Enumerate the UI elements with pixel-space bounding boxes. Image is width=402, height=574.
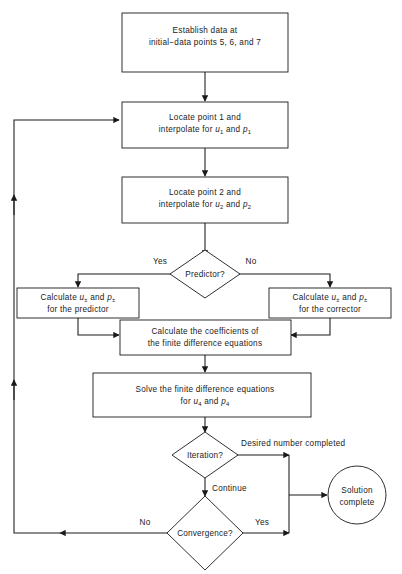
solution-complete-line1: Solution: [341, 486, 373, 495]
edge-left-rail: [14, 120, 119, 533]
calculate-corrector-line2: for the corrector: [299, 305, 361, 314]
solve-equations-box[interactable]: [93, 373, 311, 417]
calculate-predictor-line2: for the predictor: [47, 305, 109, 314]
label-convergence-no: No: [140, 518, 151, 527]
calculate-coefficients-box[interactable]: [120, 320, 291, 355]
establish-data-line2: initial−data points 5, 6, and 7: [149, 38, 261, 47]
locate2-sub-p: 2: [248, 204, 251, 210]
calculate-predictor-line1: Calculate u± and p±: [41, 293, 116, 303]
locate2-mid: and: [223, 200, 242, 209]
node-calculate-coefficients[interactable]: Calculate the coefficients of the finite…: [120, 320, 291, 355]
locate-point-1-line1: Locate point 1 and: [169, 113, 241, 122]
iteration-decision-label: Iteration?: [187, 451, 223, 460]
establish-data-line1: Establish data at: [173, 26, 238, 35]
flowchart-canvas: Establish data at initial−data points 5,…: [0, 0, 402, 574]
calccorr-mid: and: [340, 293, 359, 302]
node-locate-point-1[interactable]: Locate point 1 and interpolate for u1 an…: [122, 102, 288, 148]
calccorr-pre: Calculate: [293, 293, 332, 302]
flowchart-svg: Establish data at initial−data points 5,…: [0, 0, 402, 574]
predictor-decision-label: Predictor?: [185, 270, 225, 279]
calcpred-pre: Calculate: [41, 293, 80, 302]
node-solution-complete[interactable]: Solution complete: [328, 466, 386, 524]
edge-corrector-box-to-coefficients: [291, 318, 330, 335]
node-solve-equations[interactable]: Solve the finite difference equations fo…: [93, 373, 311, 417]
node-iteration-decision[interactable]: Iteration?: [172, 432, 238, 478]
edge-predictor-no: [226, 274, 330, 287]
coefficients-line2: the finite difference equations: [148, 339, 263, 348]
solve-pre: for: [181, 397, 194, 406]
node-establish-data[interactable]: Establish data at initial−data points 5,…: [122, 13, 288, 72]
convergence-decision-label: Convergence?: [177, 529, 233, 538]
solution-complete-line2: complete: [339, 498, 374, 507]
locate-point-2-line2: interpolate for u2 and p2: [159, 200, 251, 210]
locate2-pre: interpolate for: [159, 200, 215, 209]
locate1-pre: interpolate for: [159, 125, 215, 134]
solve-line1: Solve the finite difference equations: [136, 385, 275, 394]
label-convergence-yes: Yes: [255, 518, 269, 527]
label-predictor-yes: Yes: [153, 257, 167, 266]
node-locate-point-2[interactable]: Locate point 2 and interpolate for u2 an…: [122, 177, 288, 223]
label-iteration-done: Desired number completed: [241, 439, 345, 448]
node-convergence-decision[interactable]: Convergence?: [167, 496, 243, 570]
calcpred-sub-p: ±: [112, 297, 115, 303]
node-predictor-decision[interactable]: Predictor?: [170, 250, 240, 298]
label-iteration-continue: Continue: [212, 484, 247, 493]
locate-point-2-line1: Locate point 2 and: [169, 188, 241, 197]
edge-predictor-box-to-coefficients: [78, 318, 119, 335]
calccorr-sub-p: ±: [364, 297, 367, 303]
edge-predictor-yes: [78, 274, 184, 287]
node-calculate-corrector[interactable]: Calculate u± and p± for the corrector: [269, 288, 391, 318]
locate1-sub-p: 1: [248, 129, 251, 135]
solution-complete-circle[interactable]: [328, 466, 386, 524]
locate-point-1-line2: interpolate for u1 and p1: [159, 125, 251, 135]
node-calculate-predictor[interactable]: Calculate u± and p± for the predictor: [17, 288, 139, 318]
solve-line2: for u4 and p4: [181, 397, 230, 407]
locate1-mid: and: [223, 125, 242, 134]
calculate-corrector-line1: Calculate u± and p±: [293, 293, 368, 303]
label-predictor-no: No: [246, 257, 257, 266]
coefficients-line1: Calculate the coefficients of: [151, 327, 259, 336]
calcpred-mid: and: [88, 293, 107, 302]
solve-mid: and: [202, 397, 221, 406]
solve-sub-p: 4: [226, 401, 230, 407]
